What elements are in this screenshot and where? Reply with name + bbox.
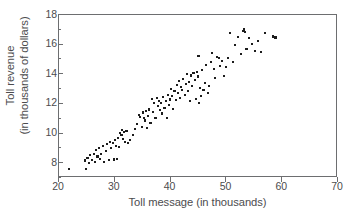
- scatter-point: [129, 139, 131, 141]
- scatter-point: [159, 109, 161, 111]
- scatter-point: [177, 92, 179, 94]
- scatter-point: [163, 107, 165, 109]
- scatter-point: [103, 161, 105, 163]
- scatter-point: [218, 57, 220, 59]
- scatter-point: [154, 117, 156, 119]
- scatter-point: [116, 158, 118, 160]
- scatter-point: [254, 50, 256, 52]
- y-axis-tick-label: 10: [46, 127, 57, 138]
- scatter-point: [171, 95, 173, 97]
- scatter-point: [207, 92, 209, 94]
- scatter-point: [221, 60, 223, 62]
- scatter-point: [85, 168, 87, 170]
- scatter-point: [184, 94, 186, 96]
- scatter-point: [237, 36, 239, 38]
- y-axis-title-line-1: Toll revenue: [4, 0, 18, 161]
- x-axis-title: Toll message (in thousands): [58, 196, 337, 208]
- scatter-point: [89, 154, 91, 156]
- scatter-point: [223, 75, 225, 77]
- scatter-point: [234, 44, 236, 46]
- scatter-point: [196, 71, 198, 73]
- scatter-point: [68, 168, 70, 170]
- scatter-point: [214, 77, 216, 79]
- scatter-point: [186, 73, 188, 75]
- x-axis-tick-label: 60: [266, 181, 296, 192]
- scatter-point: [264, 32, 266, 34]
- scatter-point: [124, 141, 126, 143]
- scatter-point: [114, 139, 116, 141]
- scatter-point: [172, 108, 174, 110]
- scatter-point: [99, 158, 101, 160]
- y-axis-tick-label: 16: [46, 38, 57, 49]
- scatter-point: [189, 100, 191, 102]
- scatter-point: [127, 142, 129, 144]
- scatter-point: [191, 85, 193, 87]
- scatter-point: [257, 40, 259, 42]
- scatter-point: [157, 105, 159, 107]
- scatter-point: [109, 141, 111, 143]
- scatter-point: [260, 51, 262, 53]
- scatter-point: [199, 87, 201, 89]
- scatter-point: [102, 145, 104, 147]
- scatter-point: [134, 128, 136, 130]
- scatter-point: [151, 98, 153, 100]
- scatter-point: [156, 97, 158, 99]
- scatter-plot-figure: Toll revenue (in thousands of dollars) 8…: [0, 0, 356, 222]
- scatter-point: [132, 134, 134, 136]
- scatter-point: [146, 127, 148, 129]
- scatter-point: [96, 155, 98, 157]
- scatter-point: [173, 90, 175, 92]
- y-axis-tick-label: 18: [46, 9, 57, 20]
- scatter-point: [244, 31, 246, 33]
- scatter-point: [118, 146, 120, 148]
- scatter-point: [120, 134, 122, 136]
- scatter-point: [162, 96, 164, 98]
- scatter-point: [95, 149, 97, 151]
- scatter-point: [198, 102, 200, 104]
- scatter-point: [194, 79, 196, 81]
- scatter-point: [213, 68, 215, 70]
- scatter-point: [110, 147, 112, 149]
- scatter-point: [169, 98, 171, 100]
- scatter-point: [168, 104, 170, 106]
- scatter-point: [93, 153, 95, 155]
- scatter-point: [94, 161, 96, 163]
- scatter-point: [208, 85, 210, 87]
- scatter-point: [201, 69, 203, 71]
- scatter-points-layer: [59, 15, 338, 178]
- scatter-point: [113, 158, 115, 160]
- scatter-point: [142, 111, 144, 113]
- y-axis-title: Toll revenue (in thousands of dollars): [4, 0, 31, 161]
- scatter-point: [117, 137, 119, 139]
- scatter-point: [190, 74, 192, 76]
- y-axis-tick-label: 8: [51, 157, 57, 168]
- scatter-point: [197, 75, 199, 77]
- scatter-point: [202, 89, 204, 91]
- scatter-point: [229, 32, 231, 34]
- scatter-point: [100, 153, 102, 155]
- scatter-point: [187, 90, 189, 92]
- scatter-point: [197, 55, 199, 57]
- y-axis-tick-label: 12: [46, 97, 57, 108]
- scatter-point: [176, 84, 178, 86]
- scatter-point: [240, 53, 242, 55]
- scatter-point: [141, 126, 143, 128]
- scatter-point: [106, 143, 108, 145]
- scatter-point: [145, 110, 147, 112]
- scatter-point: [105, 150, 107, 152]
- scatter-point: [227, 57, 229, 59]
- scatter-point: [274, 36, 276, 38]
- scatter-point: [251, 43, 253, 45]
- scatter-point: [144, 119, 146, 121]
- scatter-point: [125, 130, 127, 132]
- y-axis-tick-label: 14: [46, 68, 57, 79]
- scatter-point: [139, 116, 141, 118]
- y-axis-title-line-2: (in thousands of dollars): [17, 0, 31, 161]
- x-axis-tick-label: 50: [210, 181, 240, 192]
- scatter-point: [112, 142, 114, 144]
- scatter-point: [160, 102, 162, 104]
- scatter-point: [219, 65, 221, 67]
- scatter-point: [148, 108, 150, 110]
- scatter-point: [245, 48, 247, 50]
- scatter-point: [170, 88, 172, 90]
